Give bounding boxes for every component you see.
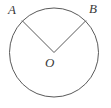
point-label-a: A — [8, 3, 16, 16]
circle-diagram-figure: A B O — [0, 0, 111, 108]
radius-segment-ob — [54, 21, 86, 53]
radius-segment-oa — [22, 21, 54, 53]
point-label-b: B — [89, 2, 97, 15]
center-label-o: O — [45, 56, 54, 69]
diagram-canvas — [0, 0, 111, 108]
